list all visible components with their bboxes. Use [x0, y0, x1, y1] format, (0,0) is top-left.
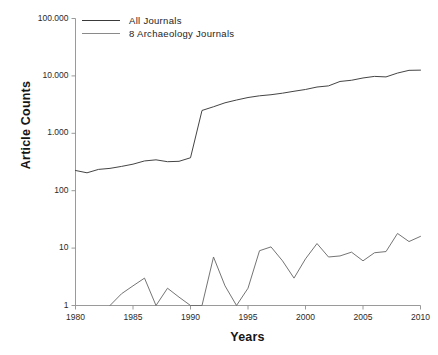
series-line-archaeology-journals [110, 233, 421, 305]
y-tick-label: 10 [59, 242, 68, 252]
y-tick-label: 10.000 [43, 70, 69, 80]
chart-figure: Article Counts Years All Journals 8 Arch… [0, 0, 438, 355]
x-tick-label: 1980 [56, 312, 96, 322]
series-line-all-journals [76, 70, 421, 173]
x-tick-label: 1990 [171, 312, 211, 322]
legend-line-swatch-archaeology-journals [82, 33, 120, 34]
y-tick-label: 100 [54, 185, 68, 195]
x-tick-label: 2005 [343, 312, 383, 322]
x-tick-label: 2000 [286, 312, 326, 322]
legend-line-swatch-all-journals [82, 20, 120, 21]
x-tick-label: 1985 [113, 312, 153, 322]
legend-label-all-journals: All Journals [129, 15, 182, 26]
y-tick-label: 100.000 [38, 13, 69, 23]
legend-item-all-journals: All Journals [82, 14, 234, 27]
y-tick-label: 1.000 [47, 127, 68, 137]
y-axis-title: Article Counts [19, 55, 33, 195]
x-axis-title: Years [75, 330, 420, 344]
x-tick-label: 2010 [401, 312, 438, 322]
chart-legend: All Journals 8 Archaeology Journals [82, 14, 234, 40]
legend-item-archaeology-journals: 8 Archaeology Journals [82, 27, 234, 40]
x-tick-label: 1995 [228, 312, 268, 322]
y-tick-label: 1 [64, 300, 69, 310]
legend-label-archaeology-journals: 8 Archaeology Journals [129, 28, 234, 39]
